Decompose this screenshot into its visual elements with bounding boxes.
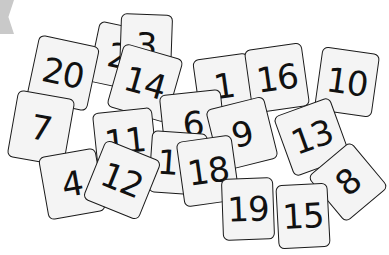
card-number: 13 xyxy=(287,114,337,160)
card-number: 15 xyxy=(281,198,324,234)
card-number: 10 xyxy=(324,62,370,101)
number-card-19: 19 xyxy=(221,177,275,241)
card-number: 8 xyxy=(329,162,367,201)
card-number: 12 xyxy=(96,157,147,204)
card-number: 16 xyxy=(254,58,300,97)
card-number: 7 xyxy=(28,109,54,146)
corner-shape xyxy=(0,0,14,34)
card-number: 20 xyxy=(39,52,86,94)
card-number: 4 xyxy=(59,165,85,202)
number-card-15: 15 xyxy=(275,183,330,250)
card-number: 19 xyxy=(227,191,269,226)
